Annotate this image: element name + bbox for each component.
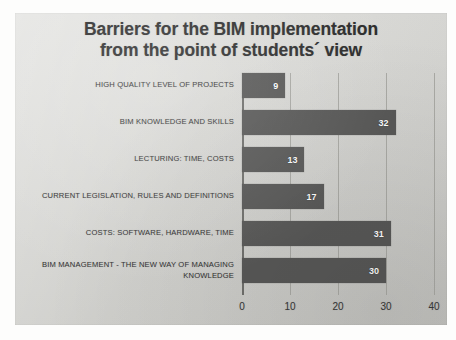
x-tick-label-20: 20: [326, 301, 350, 312]
bar-value-label: 30: [369, 266, 379, 276]
bar[interactable]: 13: [242, 147, 304, 172]
category-label: CURRENT LEGISLATION, RULES AND DEFINITIO…: [33, 184, 234, 209]
category-label: BIM MANAGEMENT - THE NEW WAY OF MANAGING…: [33, 258, 234, 283]
x-tick-label-40: 40: [422, 301, 446, 312]
x-tick-label-0: 0: [230, 301, 254, 312]
bar-value-label: 9: [273, 81, 278, 91]
photographed-page: Barriers for the BIM implementation from…: [0, 0, 456, 340]
bar-value-label: 32: [379, 118, 389, 128]
bar-row: HIGH QUALITY LEVEL OF PROJECTS9: [15, 73, 447, 98]
bar[interactable]: 9: [242, 73, 285, 98]
chart-slide: Barriers for the BIM implementation from…: [15, 13, 447, 325]
bar-row: CURRENT LEGISLATION, RULES AND DEFINITIO…: [15, 184, 447, 209]
bar[interactable]: 32: [242, 110, 396, 135]
bar-value-label: 17: [307, 192, 317, 202]
category-label: COSTS: SOFTWARE, HARDWARE, TIME: [33, 221, 234, 246]
category-label: BIM KNOWLEDGE AND SKILLS: [33, 110, 234, 135]
bar[interactable]: 17: [242, 184, 324, 209]
x-tick-label-10: 10: [278, 301, 302, 312]
bar-value-label: 31: [374, 229, 384, 239]
plot-area: 010203040HIGH QUALITY LEVEL OF PROJECTS9…: [15, 13, 447, 325]
bar-row: BIM KNOWLEDGE AND SKILLS32: [15, 110, 447, 135]
category-label: LECTURING: TIME, COSTS: [33, 147, 234, 172]
bar[interactable]: 30: [242, 258, 386, 283]
bar-row: COSTS: SOFTWARE, HARDWARE, TIME31: [15, 221, 447, 246]
x-tick-label-30: 30: [374, 301, 398, 312]
bar-value-label: 13: [287, 155, 297, 165]
category-label: HIGH QUALITY LEVEL OF PROJECTS: [33, 73, 234, 98]
bar-row: BIM MANAGEMENT - THE NEW WAY OF MANAGING…: [15, 258, 447, 283]
bar[interactable]: 31: [242, 221, 391, 246]
bar-row: LECTURING: TIME, COSTS13: [15, 147, 447, 172]
